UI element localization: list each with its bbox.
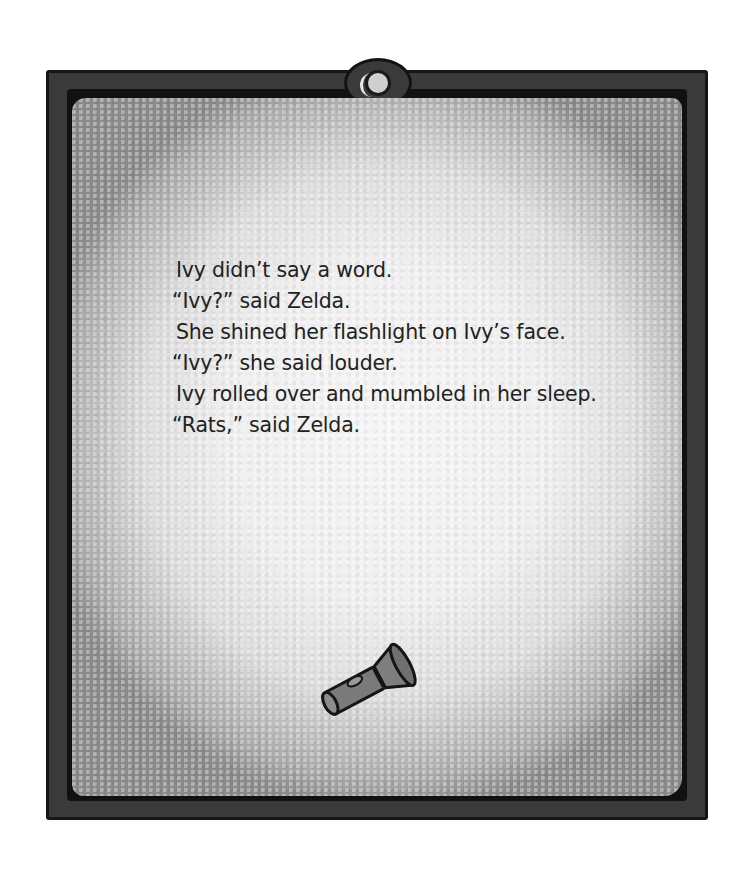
flashlight-icon [312,640,428,724]
story-line: Ivy didn’t say a word. [172,255,597,286]
story-line: “Ivy?” she said louder. [172,348,597,379]
story-line: Ivy rolled over and mumbled in her sleep… [172,379,597,410]
story-line: “Rats,” said Zelda. [172,410,597,441]
story-text: Ivy didn’t say a word. “Ivy?” said Zelda… [172,255,597,441]
story-line: She shined her flashlight on Ivy’s face. [172,317,597,348]
story-line: “Ivy?” said Zelda. [172,286,597,317]
lamp-glass [365,70,391,96]
